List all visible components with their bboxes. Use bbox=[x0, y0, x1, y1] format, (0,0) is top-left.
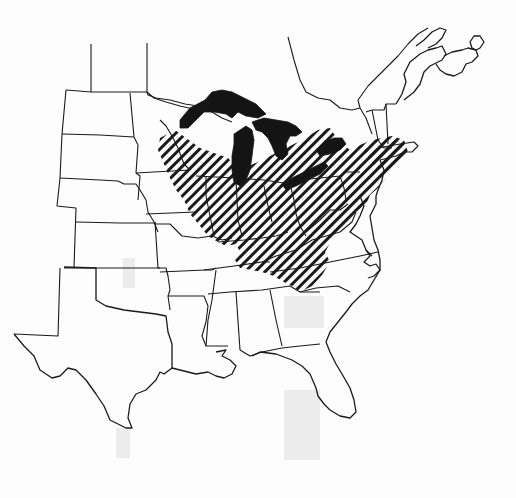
map-canvas bbox=[0, 0, 516, 498]
distribution-map bbox=[0, 0, 516, 498]
